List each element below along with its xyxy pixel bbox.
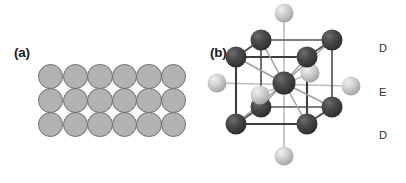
packing-sphere [136,64,161,89]
atom-corner-front-top-left [226,47,247,68]
packing-sphere [87,112,112,137]
level-label-bottom: D [379,129,387,141]
atom-light-axis-right [342,77,361,96]
packing-sphere [136,88,161,113]
packing-sphere [63,112,88,137]
atom-light-axis-front [251,86,270,105]
panel-a-label: (a) [14,45,30,60]
unit-cell-svg [203,0,363,183]
atom-corner-back-top-right [322,30,343,51]
atom-corner-front-top-right [297,47,318,68]
atom-corner-front-bottom-left [226,114,247,135]
figure-root: (a) (b) [0,0,406,183]
sphere-packing-diagram [38,64,186,138]
packing-sphere [63,64,88,89]
atom-light-axis-down [275,147,294,166]
atom-corner-front-bottom-right [297,114,318,135]
level-label-middle: E [379,86,386,98]
packing-sphere [87,88,112,113]
atom-corner-back-top-left [251,30,272,51]
atom-corner-back-bottom-right [322,97,343,118]
atom-body-centre [273,72,296,95]
packing-sphere [38,64,63,89]
packing-sphere [161,112,186,137]
bcc-unit-cell-diagram [203,0,363,183]
packing-sphere [63,88,88,113]
packing-sphere [87,64,112,89]
packing-sphere [38,88,63,113]
atom-light-axis-up [275,4,294,23]
packing-sphere [112,88,137,113]
packing-sphere [38,112,63,137]
packing-sphere [112,112,137,137]
packing-sphere [136,112,161,137]
level-label-top: D [379,42,387,54]
atom-light-axis-left [208,74,227,93]
packing-sphere [161,88,186,113]
packing-sphere [112,64,137,89]
packing-sphere [161,64,186,89]
